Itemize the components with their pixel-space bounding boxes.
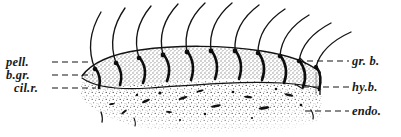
label-pellicle: pell. (6, 56, 29, 69)
label-basal-granule: b.gr. (6, 69, 30, 82)
label-granular-body: gr. b. (352, 55, 379, 68)
label-endoplasm: endo. (352, 105, 381, 118)
illustration-svg (0, 0, 401, 137)
label-ciliary-rootlet: cil.r. (14, 82, 38, 95)
figure-container: pell. b.gr. cil.r. gr. b. hy.b. endo. (0, 0, 401, 137)
label-hyaline-body: hy.b. (352, 81, 378, 94)
